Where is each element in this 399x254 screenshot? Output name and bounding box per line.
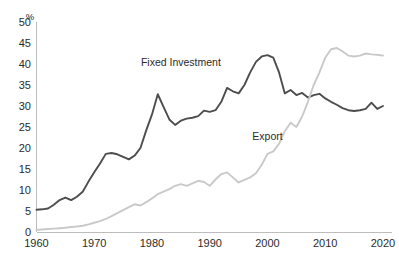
y-tick-label: 45: [19, 37, 31, 49]
x-tick-label: 1980: [140, 237, 164, 249]
y-tick-label: 20: [19, 142, 31, 154]
x-tick-label: 2010: [313, 237, 337, 249]
series-label-fixed-investment: Fixed Investment: [141, 56, 221, 68]
data-series-group: [37, 48, 384, 230]
y-tick-labels: 05101520253035404550: [19, 16, 31, 238]
x-tick-label: 1970: [82, 237, 106, 249]
x-tick-labels: 1960197019801990200020102020: [24, 237, 395, 249]
y-tick-label: 25: [19, 121, 31, 133]
x-tick-label: 1990: [198, 237, 222, 249]
axis-group: [37, 22, 393, 233]
chart-container: % 05101520253035404550 19601970198019902…: [0, 0, 399, 254]
series-inline-labels: Fixed InvestmentExport: [141, 56, 283, 142]
y-tick-label: 40: [19, 58, 31, 70]
x-tick-label: 1960: [24, 237, 48, 249]
y-tick-label: 5: [25, 205, 31, 217]
series-label-export: Export: [252, 130, 282, 142]
y-tick-label: 50: [19, 16, 31, 28]
x-tick-label: 2020: [371, 237, 395, 249]
x-tick-label: 2000: [255, 237, 279, 249]
y-tick-label: 30: [19, 100, 31, 112]
y-tick-label: 10: [19, 184, 31, 196]
y-tick-label: 35: [19, 79, 31, 91]
data-line-export: [37, 48, 384, 230]
line-chart: % 05101520253035404550 19601970198019902…: [0, 0, 399, 254]
y-tick-label: 15: [19, 163, 31, 175]
